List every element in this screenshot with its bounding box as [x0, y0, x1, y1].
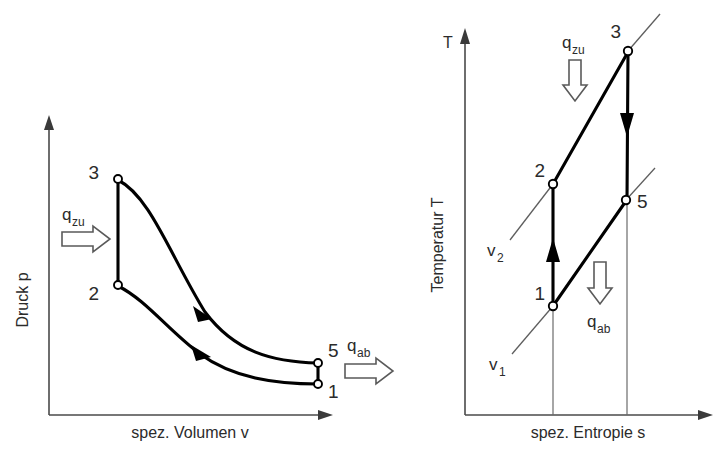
- ts-y-axis-arrowhead: [460, 28, 470, 44]
- pv-point-marker-1: [314, 380, 322, 388]
- ts-x-axis-arrowhead: [698, 410, 713, 420]
- ts-heat-in-label: q: [562, 33, 571, 52]
- ts-diagram-panel: 3 2 5 1 q zu q ab v 2 v 1 T Temperatur T…: [429, 14, 713, 441]
- ts-isochore-v2-upper-tail: [628, 14, 660, 51]
- ts-heat-out-label: q: [587, 312, 596, 331]
- ts-isochore-v2-lower-tail: [510, 184, 553, 240]
- pv-point-label-5: 5: [328, 340, 339, 361]
- pv-heat-out-arrow: [345, 358, 393, 384]
- pv-point-marker-5: [314, 359, 322, 367]
- ts-point-marker-2: [549, 180, 557, 188]
- ts-isochore-v1-lower-tail: [512, 306, 553, 354]
- pv-diagram-panel: 3 2 5 1 q zu q ab Druck p spez. Volumen …: [14, 115, 393, 441]
- pv-x-axis-arrowhead: [318, 410, 333, 420]
- ts-isochore-v1-sublabel: 1: [499, 365, 506, 379]
- pv-heat-out-label: q: [347, 336, 356, 355]
- pv-heat-in-label: q: [62, 205, 71, 224]
- ts-isochore-v2-label: v: [487, 241, 496, 260]
- pv-y-axis-arrowhead: [44, 115, 54, 130]
- ts-point-label-3: 3: [610, 21, 621, 42]
- ts-heat-in-sublabel: zu: [572, 43, 585, 57]
- thermodynamic-cycle-figure: 3 2 5 1 q zu q ab Druck p spez. Volumen …: [0, 0, 727, 460]
- pv-heat-in-sublabel: zu: [72, 215, 85, 229]
- pv-x-axis-label: spez. Volumen v: [131, 424, 248, 441]
- pv-point-label-2: 2: [88, 283, 99, 304]
- ts-point-label-5: 5: [637, 191, 648, 212]
- pv-y-axis-label: Druck p: [14, 272, 31, 327]
- ts-path-2-3: [553, 52, 628, 184]
- ts-isochore-v2-sublabel: 2: [497, 251, 504, 265]
- pv-point-label-1: 1: [328, 381, 339, 402]
- pv-point-marker-2: [114, 281, 122, 289]
- ts-heat-in-arrow: [563, 60, 587, 101]
- pv-heat-out-sublabel: ab: [357, 346, 371, 360]
- ts-direction-arrow-up: [546, 238, 560, 262]
- figure-root: 3 2 5 1 q zu q ab Druck p spez. Volumen …: [0, 0, 727, 460]
- ts-isochore-v1-label: v: [489, 355, 498, 374]
- ts-heat-out-sublabel: ab: [597, 322, 611, 336]
- ts-y-axis-label: Temperatur T: [429, 197, 446, 292]
- ts-point-label-2: 2: [534, 160, 545, 181]
- pv-path-2-1: [118, 286, 318, 384]
- ts-x-axis-label: spez. Entropie s: [531, 424, 646, 441]
- ts-point-marker-1: [549, 302, 557, 310]
- ts-heat-out-arrow: [588, 262, 612, 304]
- pv-point-label-3: 3: [88, 162, 99, 183]
- ts-point-marker-3: [624, 47, 632, 55]
- pv-path-3-5: [118, 180, 318, 363]
- ts-y-axis-symbol: T: [443, 34, 453, 51]
- ts-point-label-1: 1: [534, 283, 545, 304]
- pv-point-marker-3: [114, 175, 122, 183]
- ts-direction-arrow-down: [620, 113, 634, 137]
- ts-point-marker-5: [622, 196, 630, 204]
- pv-heat-in-arrow: [62, 226, 110, 252]
